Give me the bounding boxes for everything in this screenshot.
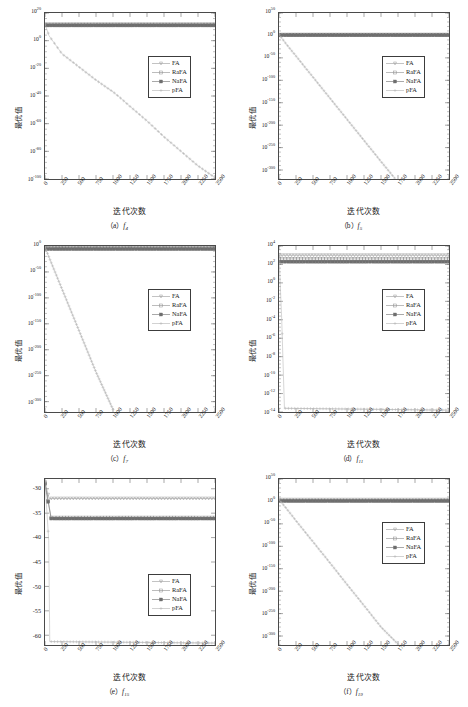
legend-item-rafa: RaFA — [151, 68, 187, 77]
series-nafa — [45, 482, 215, 520]
legend-label: NaFA — [405, 311, 421, 317]
legend-label: NaFA — [171, 596, 187, 602]
legend-marker-square-icon — [151, 68, 171, 77]
y-tick-label: -40 — [33, 534, 41, 540]
x-tick-label: 250 — [294, 642, 304, 652]
caption-function-subscript: 7 — [125, 459, 128, 464]
legend-marker-triangle-down-icon — [151, 577, 171, 586]
subplot-caption: （f）f19 — [234, 685, 468, 696]
y-tick-label: -35 — [33, 509, 41, 515]
legend-label: pFA — [405, 87, 417, 93]
y-tick-label: 10-10 — [264, 373, 275, 379]
caption-index: （f） — [339, 687, 355, 696]
legend-marker-triangle-down-icon — [151, 292, 171, 301]
legend-label: FA — [405, 293, 414, 299]
legend-item-nafa: NaFA — [151, 77, 187, 86]
legend-item-pfa: pFA — [151, 319, 187, 328]
legend-item-fa: FA — [385, 292, 421, 301]
legend-item-fa: FA — [385, 525, 421, 534]
legend-label: pFA — [171, 320, 183, 326]
x-tick-label: 0 — [43, 414, 49, 420]
x-tick-label: 2500 — [215, 640, 227, 653]
legend-item-pfa: pFA — [385, 319, 421, 328]
legend-item-nafa: NaFA — [151, 595, 187, 604]
plot-area: 102010010-2010-4010-6010-8010-1000250500… — [44, 12, 216, 180]
legend-marker-square-icon — [151, 586, 171, 595]
y-tick-label: 10-2 — [266, 298, 275, 304]
legend-label: RaFA — [171, 587, 187, 593]
y-tick-label: 10-14 — [264, 410, 275, 416]
caption-index: （c） — [106, 454, 123, 463]
legend-item-pfa: pFA — [151, 604, 187, 613]
y-tick-label: 10-8 — [266, 354, 275, 360]
legend: FARaFANaFApFA — [382, 289, 425, 331]
legend-label: pFA — [405, 320, 417, 326]
subplot-f: 最优值105010010-5010-10010-15010-20010-2501… — [234, 466, 468, 702]
x-tick-label: 500 — [311, 642, 321, 652]
legend-marker-plus-icon — [151, 604, 171, 613]
legend-marker-triangle-down-icon — [385, 292, 405, 301]
caption-function: f7 — [123, 454, 128, 463]
legend-marker-square-filled-icon — [385, 77, 405, 86]
subplot-a: 最优值102010010-2010-4010-6010-8010-1000250… — [0, 0, 234, 236]
y-tick-label: 10-12 — [264, 392, 275, 398]
legend-label: NaFA — [405, 544, 421, 550]
legend-marker-square-filled-icon — [385, 310, 405, 319]
series-nafa — [279, 34, 449, 37]
x-tick-label: 500 — [77, 642, 87, 652]
x-tick-label: 500 — [311, 176, 321, 186]
subplot-caption: （b）f5 — [234, 219, 468, 230]
y-tick-label: 100 — [267, 280, 275, 286]
legend-label: RaFA — [405, 535, 421, 541]
series-canvas — [45, 479, 215, 645]
caption-function-subscript: 11 — [359, 459, 364, 464]
y-tick-label: 1050 — [265, 475, 275, 481]
x-tick-label: 500 — [77, 176, 87, 186]
y-axis-label: 最优值 — [246, 340, 257, 362]
legend: FARaFANaFApFA — [382, 56, 425, 98]
y-tick-label: 10-200 — [262, 123, 275, 129]
series-nafa — [279, 500, 449, 503]
series-nafa — [45, 248, 215, 251]
y-tick-label: 10-150 — [28, 321, 41, 327]
series-pfa — [45, 480, 215, 644]
legend-item-nafa: NaFA — [151, 310, 187, 319]
caption-function: f11 — [357, 454, 364, 463]
legend-label: pFA — [171, 87, 183, 93]
legend-label: FA — [171, 293, 180, 299]
legend-label: NaFA — [405, 78, 421, 84]
legend-marker-square-filled-icon — [151, 310, 171, 319]
caption-function: f4 — [123, 221, 128, 230]
subplot-caption: （a）f4 — [0, 219, 234, 230]
y-tick-label: 102 — [267, 261, 275, 267]
legend-marker-square-icon — [385, 301, 405, 310]
legend-marker-plus-icon — [385, 86, 405, 95]
legend-label: FA — [405, 60, 414, 66]
series-nafa — [45, 24, 215, 27]
legend-marker-square-icon — [151, 301, 171, 310]
y-tick-label: 10-100 — [28, 177, 41, 183]
subplot-c: 最优值10010-5010-10010-15010-20010-25010-30… — [0, 233, 234, 469]
y-tick-label: 10-50 — [264, 55, 275, 61]
x-tick-label: 250 — [294, 176, 304, 186]
legend-marker-plus-icon — [385, 552, 405, 561]
x-tick-label: 500 — [311, 409, 321, 419]
y-tick-label: -60 — [33, 633, 41, 639]
y-tick-label: 100 — [33, 242, 41, 248]
x-axis-label: 迭代次数 — [44, 671, 216, 682]
convergence-figure: 最优值102010010-2010-4010-6010-8010-1000250… — [0, 0, 468, 707]
plot-area: 10010-5010-10010-15010-20010-25010-30002… — [44, 245, 216, 413]
series-fa — [45, 480, 215, 500]
legend-item-fa: FA — [151, 292, 187, 301]
series-fa — [279, 254, 449, 257]
series-pfa — [279, 254, 449, 412]
y-tick-label: 10-40 — [30, 93, 41, 99]
y-tick-label: 10-4 — [266, 317, 275, 323]
x-tick-label: 250 — [60, 642, 70, 652]
plot-area: 10410210010-210-410-610-810-1010-1210-14… — [278, 245, 450, 413]
y-tick-label: 10-300 — [28, 400, 41, 406]
y-tick-label: 10-100 — [28, 295, 41, 301]
caption-index: （e） — [105, 687, 122, 696]
legend-label: NaFA — [171, 78, 187, 84]
y-tick-label: 10-50 — [264, 521, 275, 527]
